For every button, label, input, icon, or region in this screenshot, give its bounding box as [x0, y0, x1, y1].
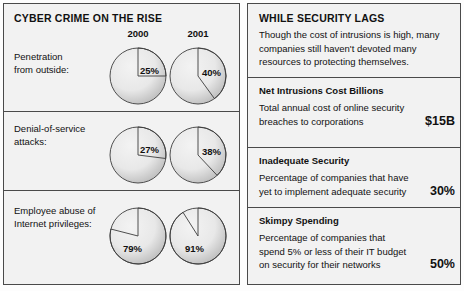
stat-heading: Skimpy Spending	[259, 215, 453, 226]
section-divider-2	[248, 147, 460, 148]
security-lags-panel: WHILE SECURITY LAGS Though the cost of i…	[247, 3, 461, 285]
pie-graphic	[109, 126, 167, 184]
stat-description: Percentage of companies that have yet to…	[259, 171, 411, 198]
row-divider-2	[4, 190, 239, 191]
cyber-crime-panel: CYBER CRIME ON THE RISE 2000 2001 Penetr…	[3, 3, 240, 285]
pie-graphic	[109, 207, 167, 265]
pie-chart-r1-c0	[109, 126, 167, 184]
pie-value-label-r1-c0: 27%	[140, 144, 159, 155]
page-title-right: WHILE SECURITY LAGS	[259, 12, 385, 24]
section-divider-1	[248, 77, 460, 78]
stat-body: Percentage of companies that spend 5% or…	[259, 231, 453, 272]
stat-body: Percentage of companies that have yet to…	[259, 171, 453, 198]
row-divider-1	[4, 111, 239, 112]
stat-value: 50%	[430, 258, 455, 272]
row-label-employee-abuse: Employee abuse ofInternet privileges:	[14, 204, 110, 230]
stat-description: Total annual cost of online security bre…	[259, 101, 411, 128]
pie-chart-r2-c0	[109, 207, 167, 265]
pie-chart-r2-c1	[169, 207, 227, 265]
row-label-penetration: Penetrationfrom outside:	[14, 50, 110, 76]
stat-body: Total annual cost of online security bre…	[259, 101, 453, 128]
pie-value-label-r2-c0: 79%	[123, 243, 142, 254]
infographic-root: CYBER CRIME ON THE RISE 2000 2001 Penetr…	[0, 0, 464, 291]
pie-graphic	[109, 47, 167, 105]
stat-value: 30%	[430, 185, 455, 199]
pie-value-label-r0-c0: 25%	[140, 65, 159, 76]
stat-value: $15B	[425, 115, 455, 129]
column-header-2001: 2001	[170, 28, 226, 39]
section-divider-3	[248, 207, 460, 208]
pie-graphic	[169, 207, 227, 265]
stat-section-skimpy-spending: Skimpy Spending Percentage of companies …	[259, 215, 453, 272]
column-header-2000: 2000	[110, 28, 166, 39]
pie-value-label-r2-c1: 91%	[185, 243, 204, 254]
intro-paragraph: Though the cost of intrusions is high, m…	[259, 28, 455, 69]
stat-heading: Inadequate Security	[259, 155, 453, 166]
stat-section-net-intrusions: Net Intrusions Cost Billions Total annua…	[259, 85, 453, 128]
pie-value-label-r1-c1: 38%	[202, 146, 221, 157]
stat-heading: Net Intrusions Cost Billions	[259, 85, 453, 96]
stat-description: Percentage of companies that spend 5% or…	[259, 231, 411, 272]
pie-value-label-r0-c1: 40%	[202, 67, 221, 78]
pie-chart-r0-c0	[109, 47, 167, 105]
stat-section-inadequate-security: Inadequate Security Percentage of compan…	[259, 155, 453, 198]
page-title-left: CYBER CRIME ON THE RISE	[14, 12, 162, 24]
row-label-denial-of-service: Denial-of-serviceattacks:	[14, 122, 110, 148]
